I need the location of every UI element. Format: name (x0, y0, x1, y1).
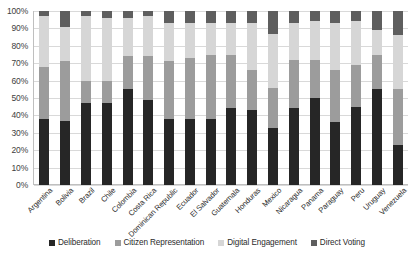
bar-segment[interactable] (351, 65, 361, 107)
bar-slot[interactable] (179, 11, 200, 185)
bar-segment[interactable] (310, 98, 320, 185)
bar-slot[interactable] (263, 11, 284, 185)
bar-segment[interactable] (60, 27, 70, 62)
bar-segment[interactable] (372, 11, 382, 30)
bar-stack-honduras[interactable] (247, 11, 257, 185)
bar-stack-paraguay[interactable] (330, 11, 340, 185)
bar-segment[interactable] (310, 60, 320, 98)
bar-segment[interactable] (39, 119, 49, 185)
bar-stack-nicaragua[interactable] (289, 11, 299, 185)
bar-segment[interactable] (247, 23, 257, 70)
bar-segment[interactable] (289, 60, 299, 109)
bar-slot[interactable] (138, 11, 159, 185)
bar-stack-guatemala[interactable] (226, 11, 236, 185)
bar-segment[interactable] (143, 56, 153, 100)
bar-segment[interactable] (247, 110, 257, 185)
bar-segment[interactable] (123, 89, 133, 185)
bar-slot[interactable] (159, 11, 180, 185)
bar-segment[interactable] (102, 18, 112, 81)
bar-segment[interactable] (81, 103, 91, 185)
bar-segment[interactable] (393, 35, 403, 89)
bar-segment[interactable] (226, 55, 236, 109)
bar-slot[interactable] (96, 11, 117, 185)
bar-slot[interactable] (76, 11, 97, 185)
bar-segment[interactable] (81, 81, 91, 104)
bar-segment[interactable] (102, 11, 112, 18)
bar-stack-el-salvador[interactable] (206, 11, 216, 185)
bar-segment[interactable] (330, 11, 340, 23)
legend-item[interactable]: Direct Voting (311, 238, 365, 247)
bar-segment[interactable] (206, 23, 216, 54)
bar-segment[interactable] (226, 108, 236, 185)
bar-segment[interactable] (164, 61, 174, 118)
legend-item[interactable]: Citizen Representation (115, 238, 205, 247)
bar-segment[interactable] (226, 11, 236, 23)
bar-stack-colombia[interactable] (123, 11, 133, 185)
bar-slot[interactable] (367, 11, 388, 185)
bar-segment[interactable] (39, 16, 49, 66)
bar-segment[interactable] (351, 11, 361, 21)
bar-segment[interactable] (206, 119, 216, 185)
bar-segment[interactable] (143, 100, 153, 185)
bar-segment[interactable] (123, 56, 133, 89)
bar-segment[interactable] (206, 11, 216, 23)
bar-stack-venezuela[interactable] (393, 11, 403, 185)
bar-stack-uruguay[interactable] (372, 11, 382, 185)
bar-slot[interactable] (200, 11, 221, 185)
bar-segment[interactable] (123, 11, 133, 18)
bar-stack-ecuador[interactable] (185, 11, 195, 185)
bar-segment[interactable] (164, 11, 174, 23)
bar-segment[interactable] (330, 70, 340, 122)
bar-segment[interactable] (143, 16, 153, 56)
bar-segment[interactable] (330, 23, 340, 70)
bar-segment[interactable] (81, 16, 91, 80)
bar-segment[interactable] (123, 18, 133, 56)
bar-stack-mexico[interactable] (268, 11, 278, 185)
bar-segment[interactable] (289, 108, 299, 185)
bar-stack-argentina[interactable] (39, 11, 49, 185)
bar-segment[interactable] (372, 55, 382, 90)
bar-slot[interactable] (387, 11, 408, 185)
bar-segment[interactable] (60, 11, 70, 27)
bar-stack-brazil[interactable] (81, 11, 91, 185)
bar-stack-chile[interactable] (102, 11, 112, 185)
bar-segment[interactable] (268, 128, 278, 185)
bar-segment[interactable] (164, 23, 174, 61)
legend-item[interactable]: Digital Engagement (218, 238, 297, 247)
bar-stack-peru[interactable] (351, 11, 361, 185)
bar-segment[interactable] (206, 55, 216, 119)
bar-stack-panama[interactable] (310, 11, 320, 185)
bar-segment[interactable] (164, 119, 174, 185)
bar-segment[interactable] (226, 23, 236, 54)
bar-segment[interactable] (268, 11, 278, 34)
bar-segment[interactable] (289, 11, 299, 23)
bar-stack-bolivia[interactable] (60, 11, 70, 185)
bar-segment[interactable] (372, 30, 382, 54)
bar-segment[interactable] (268, 88, 278, 128)
bar-segment[interactable] (310, 21, 320, 59)
bar-segment[interactable] (60, 61, 70, 120)
bar-slot[interactable] (55, 11, 76, 185)
bar-segment[interactable] (247, 11, 257, 23)
bar-segment[interactable] (102, 81, 112, 104)
bar-segment[interactable] (39, 67, 49, 119)
bar-slot[interactable] (325, 11, 346, 185)
bar-segment[interactable] (289, 23, 299, 60)
bar-segment[interactable] (393, 145, 403, 185)
bar-segment[interactable] (393, 89, 403, 145)
bar-segment[interactable] (185, 11, 195, 23)
legend-item[interactable]: Deliberation (49, 238, 101, 247)
bar-slot[interactable] (283, 11, 304, 185)
bar-segment[interactable] (330, 122, 340, 185)
bar-segment[interactable] (247, 70, 257, 110)
bar-slot[interactable] (242, 11, 263, 185)
bar-segment[interactable] (185, 23, 195, 58)
bar-slot[interactable] (221, 11, 242, 185)
bar-segment[interactable] (268, 34, 278, 88)
bar-stack-costa-rica[interactable] (143, 11, 153, 185)
bar-segment[interactable] (310, 11, 320, 21)
bar-segment[interactable] (185, 119, 195, 185)
bar-segment[interactable] (351, 21, 361, 65)
bar-segment[interactable] (185, 58, 195, 119)
bar-segment[interactable] (102, 103, 112, 185)
